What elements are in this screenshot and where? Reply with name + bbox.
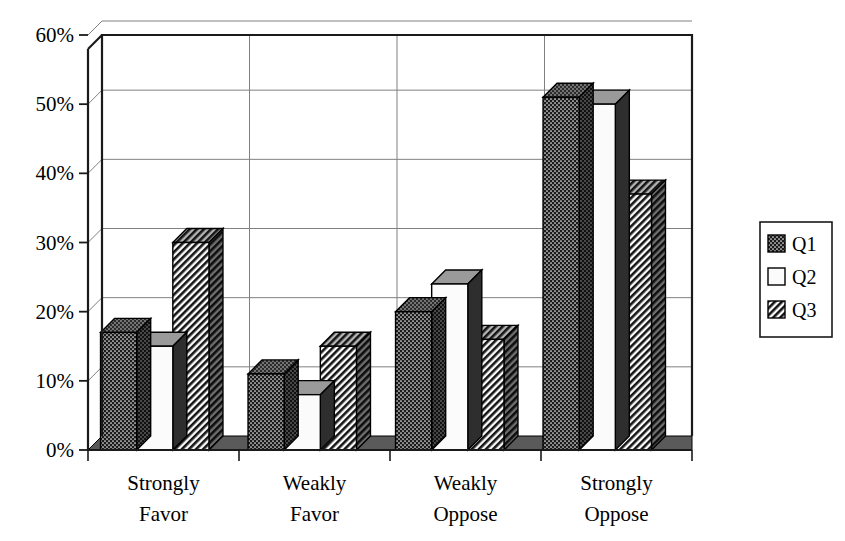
x-axis-category-label: Oppose [584, 502, 648, 526]
y-axis-tick-label: 30% [36, 231, 75, 255]
x-axis-category-label: Weakly [434, 471, 498, 495]
legend-swatch-q2 [768, 268, 785, 285]
x-axis-category-label: Favor [139, 502, 188, 526]
chart-legend[interactable]: Q1Q2Q3 [760, 222, 832, 337]
bar-q1-strongly-favor [101, 318, 151, 450]
bar-front-face [543, 97, 579, 450]
bar-side-face [615, 90, 629, 450]
x-axis-category-label: Strongly [580, 471, 653, 495]
bar-side-face [173, 332, 187, 450]
bar-side-face [284, 360, 298, 450]
bar-side-face [504, 325, 518, 450]
y-axis-tick-label: 20% [36, 300, 75, 324]
x-axis-category-label: Strongly [127, 471, 200, 495]
chart-container: 0%10%20%30%40%50%60% StronglyFavorWeakly… [0, 0, 845, 541]
x-axis-category-label: Favor [290, 502, 339, 526]
bar-side-face [356, 332, 370, 450]
bar-front-face [396, 312, 432, 450]
bar-q1-weakly-favor [248, 360, 298, 450]
bar-q1-strongly-oppose [543, 83, 593, 450]
legend-swatch-q3 [768, 301, 785, 318]
bar-side-face [468, 270, 482, 450]
y-axis-tick-label: 0% [46, 438, 74, 462]
y-axis-tick-label: 50% [36, 92, 75, 116]
y-axis-tick-label: 40% [36, 161, 75, 185]
bar-side-face [209, 229, 223, 451]
bar-side-face [137, 318, 151, 450]
legend-label: Q1 [792, 233, 816, 255]
bar-side-face [432, 298, 446, 450]
bar-front-face [101, 332, 137, 450]
legend-label: Q3 [792, 299, 816, 321]
bar-q1-weakly-oppose [396, 298, 446, 450]
legend-item-q1[interactable]: Q1 [768, 233, 816, 255]
legend-item-q2[interactable]: Q2 [768, 266, 816, 288]
legend-swatch-q1 [768, 235, 785, 252]
y-axis-tick-label: 60% [36, 23, 75, 47]
x-axis-category-label: Weakly [283, 471, 347, 495]
bar-side-face [651, 180, 665, 450]
bar-chart-3d: 0%10%20%30%40%50%60% StronglyFavorWeakly… [0, 0, 845, 541]
x-axis-category-label: Oppose [433, 502, 497, 526]
legend-label: Q2 [792, 266, 816, 288]
bar-front-face [248, 374, 284, 450]
bar-side-face [579, 83, 593, 450]
legend-item-q3[interactable]: Q3 [768, 299, 816, 321]
y-axis-tick-label: 10% [36, 369, 75, 393]
